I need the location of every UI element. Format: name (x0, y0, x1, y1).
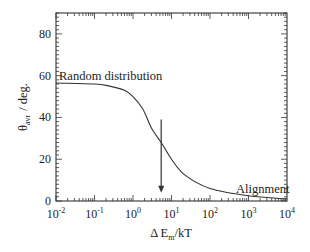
y-tick-label: 20 (39, 152, 51, 166)
x-tick-label: 102 (202, 206, 218, 221)
x-axis-title-delta: Δ E (150, 226, 168, 240)
axes-box (56, 13, 287, 201)
annotation-alignment: Alignment (236, 182, 290, 196)
x-axis-tick-labels: 10-210-1100101102103104 (47, 206, 295, 221)
y-axis-title: θavr/ deg. (16, 83, 32, 131)
y-axis-title-unit: / deg. (16, 83, 30, 111)
x-tick-label: 104 (279, 206, 295, 221)
y-tick-label: 40 (39, 110, 51, 124)
arrow-marker (158, 120, 164, 193)
x-axis-title: Δ Em/kT (150, 226, 192, 242)
x-tick-label: 10-2 (47, 206, 66, 221)
y-tick-label: 60 (39, 69, 51, 83)
x-tick-label: 103 (241, 206, 257, 221)
x-tick-label: 100 (125, 206, 141, 221)
y-axis-tick-labels: 020406080 (39, 27, 51, 208)
y-tick-label: 80 (39, 27, 51, 41)
y-axis-title-sub: avr (23, 114, 32, 125)
x-axis-ticks (56, 13, 285, 201)
y-tick-label: 0 (45, 194, 51, 208)
x-tick-label: 10-1 (85, 206, 104, 221)
annotation-random-distribution: Random distribution (59, 69, 163, 83)
x-axis-title-rest: /kT (174, 226, 192, 240)
plot-frame (56, 13, 287, 201)
y-axis-ticks (56, 13, 287, 201)
x-tick-label: 101 (164, 206, 180, 221)
chart-figure: 10-210-1100101102103104 020406080 Random… (0, 0, 310, 252)
arrow-head-icon (158, 186, 164, 193)
svg-text:θavr/ deg.: θavr/ deg. (16, 83, 32, 131)
